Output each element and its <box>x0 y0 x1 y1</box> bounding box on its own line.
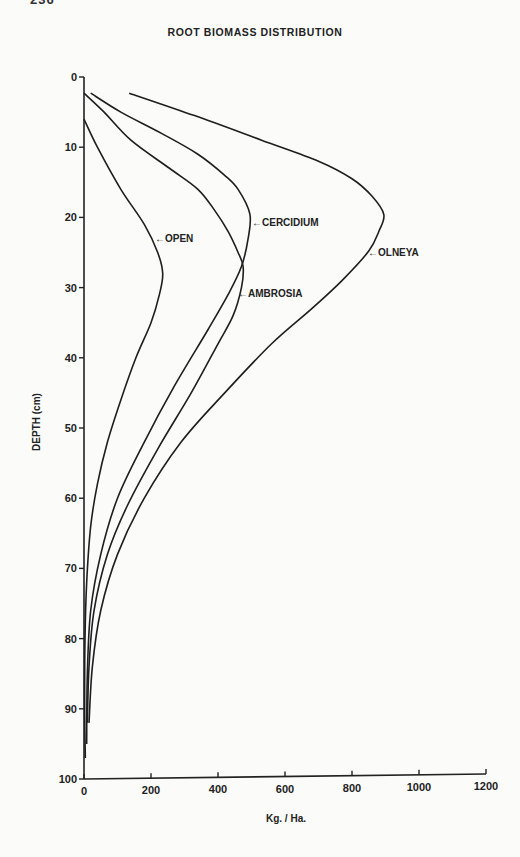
curve-cercidium <box>87 93 251 744</box>
curve-open <box>84 119 163 758</box>
label-olneya: ←OLNEYA <box>368 247 419 258</box>
y-tick-label: 80 <box>65 633 77 645</box>
y-tick-label: 10 <box>65 141 77 153</box>
axes: 0102030405060708090100020040060080010001… <box>59 71 499 797</box>
x-tick-label: 600 <box>276 783 294 795</box>
label-open: ←OPEN <box>155 233 193 244</box>
y-axis-label: DEPTH (cm) <box>31 393 42 451</box>
y-tick-label: 90 <box>65 703 77 715</box>
y-tick-label: 0 <box>71 71 77 83</box>
x-tick-label: 800 <box>343 782 361 794</box>
y-tick-label: 20 <box>65 211 77 223</box>
x-tick-label: 1200 <box>474 780 498 792</box>
y-tick-label: 100 <box>59 773 77 785</box>
x-tick-label: 1000 <box>407 781 431 793</box>
x-axis-label: Kg. / Ha. <box>266 813 306 824</box>
x-tick-label: 400 <box>209 783 227 795</box>
y-tick-label: 30 <box>65 282 77 294</box>
x-tick-label: 0 <box>81 785 87 797</box>
chart-title: ROOT BIOMASS DISTRIBUTION <box>168 26 343 38</box>
curves <box>84 93 384 758</box>
root-biomass-chart: ROOT BIOMASS DISTRIBUTION 01020304050607… <box>0 0 520 857</box>
label-ambrosia: ←AMBROSIA <box>238 288 302 299</box>
x-tick-label: 200 <box>142 784 160 796</box>
y-tick-label: 60 <box>65 492 77 504</box>
curve-ambrosia <box>84 93 243 723</box>
y-tick-label: 40 <box>65 352 77 364</box>
y-tick-label: 50 <box>65 422 77 434</box>
label-cercidium: ←CERCIDIUM <box>252 217 319 228</box>
y-tick-label: 70 <box>65 562 77 574</box>
